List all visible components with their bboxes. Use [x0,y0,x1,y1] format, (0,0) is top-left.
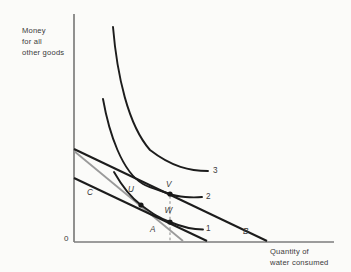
origin-label: 0 [64,234,69,243]
point-w-dot [167,219,172,224]
curve-1-label: 1 [206,224,211,233]
point-w-label: W [165,206,174,215]
y-axis-label-line3: other goods [22,48,64,57]
curve-3-label: 3 [213,166,218,175]
figure-canvas: Money for all other goods 0 Quantity of … [0,0,351,272]
curve-2-label: 2 [206,192,211,201]
y-axis-label-line2: for all [22,37,42,46]
point-a-label: A [149,225,156,234]
economics-indifference-curve-figure: Money for all other goods 0 Quantity of … [0,0,351,272]
x-axis-label-line2: water consumed [269,258,329,267]
indifference-curve-2 [103,99,202,197]
line-b-label: B [243,227,249,236]
y-axis-label-line1: Money [22,26,46,35]
indifference-curve-3 [113,27,208,171]
budget-line-c [74,178,207,241]
point-v-label: V [166,180,173,189]
line-c-label: C [87,188,93,197]
x-axis-label-line1: Quantity of [270,247,310,256]
point-v-dot [167,191,172,196]
point-u-label: U [128,185,134,194]
point-u-dot [138,202,143,207]
